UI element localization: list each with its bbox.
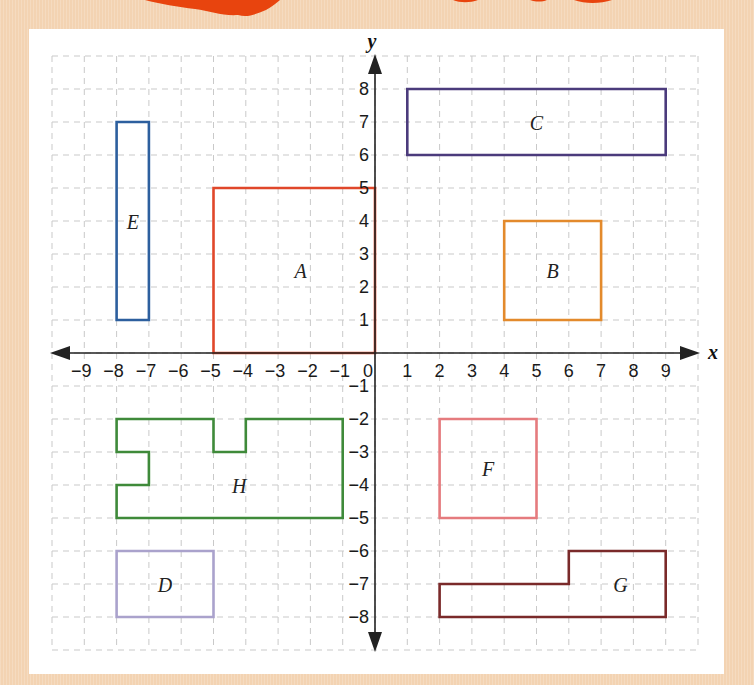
y-tick-label: −5 [348,508,369,528]
shape-a: A [214,188,376,353]
x-axis-left-arrow-icon [50,346,70,360]
decorative-red-banner [0,0,754,30]
x-tick-label: −1 [329,361,350,381]
shape-b: B [504,221,601,320]
shape-label: H [231,475,248,497]
red-blob-small-2 [530,0,547,2]
y-tick-label: 1 [359,310,369,330]
x-tick-label: −3 [265,361,286,381]
coordinate-grid-panel: ABCDEFGH −9−8−7−6−5−4−3−2−10123456789876… [29,29,724,674]
x-tick-label: 2 [435,361,445,381]
y-tick-label: −7 [348,574,369,594]
shape-label: A [293,260,308,282]
x-tick-label: 5 [531,361,541,381]
x-tick-label: 8 [628,361,638,381]
x-tick-label: −5 [200,361,221,381]
shape-f: F [440,419,537,518]
y-axis-down-arrow-icon [368,632,382,652]
x-tick-label: −7 [136,361,157,381]
y-tick-label: −1 [348,376,369,396]
shape-g: G [440,551,666,617]
axes [50,54,700,652]
x-tick-label: 4 [499,361,509,381]
shape-label: E [126,211,139,233]
shape-label: D [157,574,173,596]
red-blob-large [145,0,280,16]
x-tick-label: −9 [71,361,92,381]
shape-label: C [530,112,544,134]
y-axis-up-arrow-icon [368,54,382,74]
y-tick-label: 2 [359,277,369,297]
y-axis-label: y [366,30,377,53]
shape-outline [440,551,666,617]
y-tick-label: 5 [359,178,369,198]
x-tick-label: 1 [402,361,412,381]
x-tick-label: −8 [103,361,124,381]
shape-label: B [547,260,559,282]
x-axis-label: x [707,341,718,363]
y-tick-label: −3 [348,442,369,462]
y-tick-label: 7 [359,112,369,132]
shape-h: H [117,419,343,518]
shape-outline [117,419,343,518]
coordinate-plane: ABCDEFGH −9−8−7−6−5−4−3−2−10123456789876… [29,29,724,674]
y-tick-label: −8 [348,607,369,627]
x-tick-label: −2 [297,361,318,381]
x-tick-label: 9 [661,361,671,381]
red-blob-small-1 [453,0,478,2]
tick-labels: −9−8−7−6−5−4−3−2−1012345678987654321−1−2… [71,30,718,627]
y-tick-label: 4 [359,211,369,231]
red-blob-small-3 [574,0,612,3]
shape-label: G [613,574,628,596]
x-tick-label: 6 [564,361,574,381]
x-axis-right-arrow-icon [680,346,700,360]
y-tick-label: −2 [348,409,369,429]
x-tick-label: 7 [596,361,606,381]
x-tick-label: −4 [233,361,254,381]
x-tick-label: 3 [467,361,477,381]
shape-label: F [481,458,495,480]
y-tick-label: −6 [348,541,369,561]
y-tick-label: 8 [359,79,369,99]
x-tick-label: −6 [168,361,189,381]
y-tick-label: 6 [359,145,369,165]
y-tick-label: −4 [348,475,369,495]
y-tick-label: 3 [359,244,369,264]
